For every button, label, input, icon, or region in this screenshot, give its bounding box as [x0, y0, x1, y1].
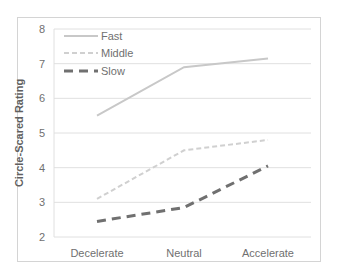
y-tick-label: 2 [39, 231, 45, 243]
y-tick-label: 8 [39, 23, 45, 35]
x-tick-label: Neutral [166, 247, 201, 259]
y-tick-label: 3 [39, 196, 45, 208]
y-tick-label: 4 [39, 162, 45, 174]
legend-label-slow: Slow [101, 65, 125, 77]
y-tick-label: 6 [39, 92, 45, 104]
legend-label-fast: Fast [101, 30, 122, 42]
series-line-middle [97, 140, 268, 199]
y-tick-label: 5 [39, 127, 45, 139]
line-chart: 2345678DecelerateNeutralAccelerateFastMi… [0, 0, 337, 279]
series-line-slow [97, 166, 268, 221]
x-tick-label: Accelerate [242, 247, 294, 259]
x-tick-label: Decelerate [70, 247, 123, 259]
legend-label-middle: Middle [101, 47, 133, 59]
y-tick-label: 7 [39, 58, 45, 70]
